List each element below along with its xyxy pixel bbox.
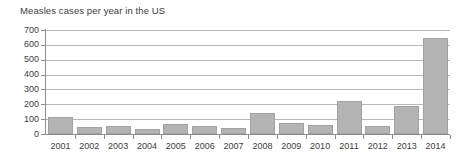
bar-2005 <box>163 124 188 134</box>
x-axis-tick-label-2011: 2011 <box>335 141 364 152</box>
y-axis-tick-label: 400 <box>9 70 39 79</box>
x-axis-tick <box>421 135 422 139</box>
bar-series <box>46 30 450 134</box>
y-axis-tick-label: 500 <box>9 55 39 64</box>
y-axis-tick <box>41 30 45 31</box>
y-axis-tick-label: 700 <box>9 26 39 35</box>
measles-cases-bar-chart: Measles cases per year in the US 0100200… <box>0 0 465 158</box>
x-axis-tick-label-2009: 2009 <box>277 141 306 152</box>
x-axis-tick-label-2013: 2013 <box>392 141 421 152</box>
bar-2003 <box>106 126 131 134</box>
x-axis-tick <box>306 135 307 139</box>
x-axis-tick-label-2002: 2002 <box>75 141 104 152</box>
y-axis-tick-label: 300 <box>9 85 39 94</box>
x-axis-tick-label-2014: 2014 <box>421 141 450 152</box>
y-axis-tick <box>41 75 45 76</box>
chart-title: Measles cases per year in the US <box>20 5 165 17</box>
y-axis-tick <box>41 134 45 135</box>
bar-2012 <box>365 126 390 134</box>
bar-2014 <box>423 38 448 134</box>
bar-2006 <box>192 126 217 134</box>
x-axis-tick <box>190 135 191 139</box>
y-axis-tick-labels: 0100200300400500600700 <box>6 0 39 158</box>
bar-2001 <box>48 117 73 134</box>
y-axis-tick <box>41 89 45 90</box>
y-axis-tick-label: 100 <box>9 115 39 124</box>
x-axis-tick <box>133 135 134 139</box>
bar-2011 <box>337 101 362 134</box>
x-axis-tick-label-2008: 2008 <box>248 141 277 152</box>
y-axis-tick-label: 600 <box>9 40 39 49</box>
y-axis-tick-label: 200 <box>9 100 39 109</box>
x-axis-tick-label-2003: 2003 <box>104 141 133 152</box>
y-axis-tick <box>41 104 45 105</box>
bar-2009 <box>279 123 304 134</box>
x-axis-tick <box>104 135 105 139</box>
x-axis-tick-label-2012: 2012 <box>363 141 392 152</box>
bar-2010 <box>308 125 333 134</box>
bar-2013 <box>394 106 419 134</box>
x-axis-tick-label-2007: 2007 <box>219 141 248 152</box>
x-axis-tick <box>248 135 249 139</box>
x-axis-tick <box>75 135 76 139</box>
x-axis-tick <box>335 135 336 139</box>
plot-area <box>46 30 450 134</box>
x-axis-tick <box>392 135 393 139</box>
x-axis-tick <box>450 135 451 139</box>
x-axis-tick-label-2004: 2004 <box>133 141 162 152</box>
y-axis-tick <box>41 60 45 61</box>
y-axis-tick <box>41 45 45 46</box>
y-axis-tick-label: 0 <box>9 130 39 139</box>
x-axis-tick-label-2006: 2006 <box>190 141 219 152</box>
x-axis-tick <box>363 135 364 139</box>
bar-2008 <box>250 113 275 134</box>
x-axis-tick <box>277 135 278 139</box>
y-axis-tick <box>41 119 45 120</box>
x-axis-tick-label-2010: 2010 <box>306 141 335 152</box>
x-axis-tick <box>219 135 220 139</box>
x-axis-tick-label-2001: 2001 <box>46 141 75 152</box>
x-axis-tick-label-2005: 2005 <box>161 141 190 152</box>
x-axis-tick <box>161 135 162 139</box>
